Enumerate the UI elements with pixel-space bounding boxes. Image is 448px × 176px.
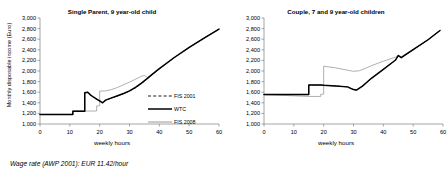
y-tick-label: 2,200 <box>246 57 260 63</box>
y-tick-label: 2,600 <box>22 36 36 42</box>
y-tick-label: 2,800 <box>246 26 260 32</box>
x-tick-label: 60 <box>216 129 222 135</box>
series-line-wtc <box>264 30 440 94</box>
y-tick-label: 1,400 <box>246 100 260 106</box>
series-line-fis-2001 <box>264 30 440 94</box>
x-tick-label: 0 <box>38 129 41 135</box>
legend-label: FIS 2001 <box>174 93 196 99</box>
figure-container: Single Parent, 9 year-old child Monthly … <box>0 0 448 176</box>
y-tick-label: 2,200 <box>22 57 36 63</box>
y-tick-label: 1,200 <box>246 110 260 116</box>
x-tick-label: 60 <box>440 129 446 135</box>
y-tick-label: 1,200 <box>22 110 36 116</box>
legend-label: FIS 2008 <box>174 119 196 125</box>
legend-item-fis-2001[interactable]: FIS 2001 <box>148 93 196 99</box>
x-tick-label: 50 <box>186 129 192 135</box>
x-tick-label: 30 <box>126 129 132 135</box>
series-line-fis-2008 <box>264 30 440 96</box>
x-axis-title-right: weekly hours <box>224 139 448 146</box>
chart-panel-couple: Couple, 7 and 9 year-old children 1,0001… <box>224 0 448 152</box>
y-tick-label: 2,000 <box>22 68 36 74</box>
legend-item-wtc[interactable]: WTC <box>148 106 186 112</box>
y-tick-label: 2,800 <box>22 26 36 32</box>
x-tick-label: 50 <box>410 129 416 135</box>
x-tick-label: 10 <box>291 129 297 135</box>
series-line-fis-2001 <box>40 29 219 114</box>
x-tick-label: 10 <box>67 129 73 135</box>
footnote-wage-rate: Wage rate (AWP 2001): EUR 11.42/hour <box>10 160 128 167</box>
chart-panel-single-parent: Single Parent, 9 year-old child Monthly … <box>0 0 224 152</box>
x-tick-label: 0 <box>262 129 265 135</box>
series-line-wtc <box>40 29 219 114</box>
y-tick-label: 3,000 <box>246 15 260 21</box>
x-tick-label: 40 <box>156 129 162 135</box>
y-tick-label: 2,600 <box>246 36 260 42</box>
y-tick-label: 1,400 <box>22 100 36 106</box>
x-axis-title-left: weekly hours <box>0 139 224 146</box>
x-tick-label: 20 <box>97 129 103 135</box>
y-tick-label: 2,000 <box>246 68 260 74</box>
y-tick-label: 1,800 <box>246 79 260 85</box>
y-tick-label: 3,000 <box>22 15 36 21</box>
x-tick-label: 40 <box>380 129 386 135</box>
y-tick-label: 2,400 <box>246 47 260 53</box>
y-tick-label: 1,000 <box>246 121 260 127</box>
series-line-fis-2008 <box>40 29 219 114</box>
x-tick-label: 20 <box>321 129 327 135</box>
y-tick-label: 1,800 <box>22 79 36 85</box>
plot-area-right: 1,0001,2001,4001,6001,8002,0002,2002,400… <box>224 0 448 152</box>
plot-area-left: 1,0001,2001,4001,6001,8002,0002,2002,400… <box>0 0 224 152</box>
y-tick-label: 1,600 <box>22 89 36 95</box>
x-tick-label: 30 <box>350 129 356 135</box>
legend-label: WTC <box>174 106 186 112</box>
y-tick-label: 2,400 <box>22 47 36 53</box>
y-tick-label: 1,600 <box>246 89 260 95</box>
y-tick-label: 1,000 <box>22 121 36 127</box>
